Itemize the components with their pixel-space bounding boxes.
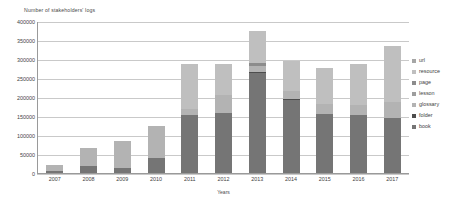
bar-segment-resource — [215, 64, 232, 95]
bar-2013[interactable] — [249, 31, 266, 173]
bar-segment-glossary — [148, 126, 165, 158]
bar-slot-2010 — [139, 22, 173, 173]
bar-segment-resource — [350, 64, 367, 105]
y-axis-tick-label: 0 — [0, 171, 35, 177]
bar-segment-glossary — [384, 102, 401, 119]
bar-2010[interactable] — [148, 126, 165, 173]
x-axis-tick-label: 2011 — [173, 176, 207, 182]
x-axis-tick-label: 2012 — [207, 176, 241, 182]
bar-2007[interactable] — [46, 165, 63, 173]
bar-slot-2015 — [308, 22, 342, 173]
bar-segment-book — [46, 171, 63, 173]
y-axis-tick-label: 200000 — [0, 95, 35, 101]
y-axis-tick-label: 250000 — [0, 76, 35, 82]
y-axis-tick-labels: 4000003500003000002500002000001500001000… — [0, 22, 35, 174]
x-axis-line — [37, 173, 409, 174]
legend-item-label: page — [419, 80, 431, 85]
bar-segment-resource — [283, 61, 300, 91]
legend-swatch-icon — [412, 114, 416, 118]
x-axis-tick-label: 2017 — [375, 176, 409, 182]
y-axis-tick-label: 50000 — [0, 152, 35, 158]
bar-segment-glossary — [316, 104, 333, 114]
legend-swatch-icon — [412, 92, 416, 96]
x-axis-tick-label: 2008 — [72, 176, 106, 182]
legend-swatch-icon — [412, 59, 416, 63]
legend-item-label: folder — [419, 113, 433, 118]
bar-segment-resource — [181, 64, 198, 109]
bar-slot-2009 — [105, 22, 139, 173]
x-axis-tick-label: 2014 — [274, 176, 308, 182]
legend-swatch-icon — [412, 70, 416, 74]
bar-2012[interactable] — [215, 64, 232, 173]
legend-item-resource[interactable]: resource — [412, 69, 440, 74]
x-axis-title: Years — [38, 189, 409, 195]
legend-item-url[interactable]: url — [412, 58, 440, 63]
bar-slot-2007 — [38, 22, 72, 173]
bar-segment-resource — [316, 68, 333, 104]
chart-legend: urlresourcepagelessonglossaryfolderbook — [412, 58, 440, 129]
y-axis-tick-label: 150000 — [0, 114, 35, 120]
x-axis-tick-labels: 2007200820092010201120122013201420152016… — [38, 176, 409, 182]
y-axis-tick-label: 350000 — [0, 38, 35, 44]
bar-slot-2013 — [240, 22, 274, 173]
x-axis-tick-label: 2009 — [105, 176, 139, 182]
bar-segment-glossary — [80, 148, 97, 166]
bar-2014[interactable] — [283, 61, 300, 173]
gridline — [37, 174, 409, 175]
legend-item-label: glossary — [419, 102, 439, 107]
y-axis-tick-label: 100000 — [0, 133, 35, 139]
bar-segment-book — [80, 166, 97, 173]
bar-segment-book — [215, 113, 232, 173]
bar-2011[interactable] — [181, 64, 198, 173]
legend-swatch-icon — [412, 125, 416, 129]
legend-item-page[interactable]: page — [412, 80, 440, 85]
x-axis-tick-label: 2007 — [38, 176, 72, 182]
stacked-bar-chart: Number of stakeholders' logs 40000035000… — [0, 0, 463, 211]
legend-item-label: url — [419, 58, 425, 63]
legend-item-glossary[interactable]: glossary — [412, 102, 440, 107]
bar-slot-2014 — [274, 22, 308, 173]
bar-segment-glossary — [350, 105, 367, 115]
bar-segment-book — [350, 115, 367, 173]
x-axis-tick-label: 2016 — [342, 176, 376, 182]
legend-item-label: book — [419, 124, 431, 129]
x-axis-tick-label: 2013 — [240, 176, 274, 182]
bar-segment-resource — [384, 46, 401, 101]
y-axis-title: Number of stakeholders' logs — [24, 7, 95, 13]
bar-2008[interactable] — [80, 148, 97, 173]
bar-slot-2011 — [173, 22, 207, 173]
bar-segment-resource — [249, 31, 266, 63]
plot-area — [37, 22, 409, 174]
x-axis-tick-label: 2015 — [308, 176, 342, 182]
bar-2017[interactable] — [384, 46, 401, 173]
legend-item-label: lesson — [419, 91, 435, 96]
bar-slot-2008 — [72, 22, 106, 173]
legend-swatch-icon — [412, 103, 416, 107]
bar-segment-book — [249, 73, 266, 173]
bar-segment-book — [316, 114, 333, 173]
legend-item-label: resource — [419, 69, 440, 74]
legend-item-book[interactable]: book — [412, 124, 440, 129]
bar-segment-book — [148, 158, 165, 173]
bar-2015[interactable] — [316, 68, 333, 173]
bar-segment-book — [283, 100, 300, 173]
legend-item-folder[interactable]: folder — [412, 113, 440, 118]
x-axis-tick-label: 2010 — [139, 176, 173, 182]
bar-segment-book — [384, 118, 401, 173]
bar-2009[interactable] — [114, 141, 131, 173]
legend-swatch-icon — [412, 81, 416, 85]
bar-group — [38, 22, 409, 173]
bar-slot-2016 — [342, 22, 376, 173]
legend-item-lesson[interactable]: lesson — [412, 91, 440, 96]
y-axis-tick-label: 400000 — [0, 19, 35, 25]
bar-2016[interactable] — [350, 64, 367, 173]
y-axis-tick-label: 300000 — [0, 57, 35, 63]
bar-segment-glossary — [114, 141, 131, 168]
bar-segment-glossary — [215, 95, 232, 113]
bar-segment-glossary — [283, 91, 300, 99]
bar-slot-2017 — [375, 22, 409, 173]
bar-slot-2012 — [207, 22, 241, 173]
bar-segment-book — [114, 168, 131, 173]
bar-segment-book — [181, 115, 198, 173]
